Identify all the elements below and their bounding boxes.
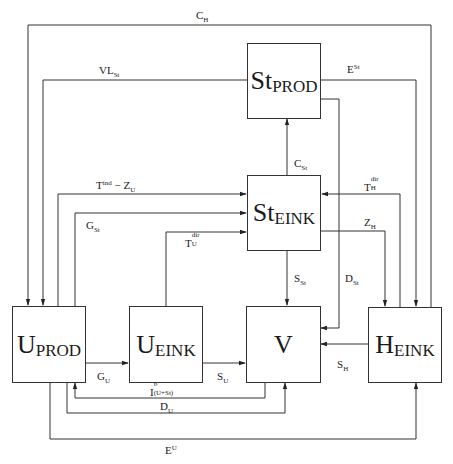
edge-z-h	[321, 231, 385, 306]
node-st-eink: StEINK	[247, 175, 321, 251]
label-t-h-dir: TdirH	[364, 180, 379, 193]
label-s-u: SU	[217, 371, 228, 382]
label-g-u: GU	[97, 371, 110, 382]
label-g-st: GSt	[86, 220, 100, 231]
node-label: U	[17, 332, 36, 358]
label-t-u-dir: TdirU	[185, 236, 200, 249]
node-u-prod: UPROD	[12, 306, 86, 383]
node-subscript: EINK	[394, 341, 435, 361]
label-z-h: ZH	[364, 217, 376, 228]
label-i-b: Ib(U+St)	[150, 385, 180, 398]
edge-e-u	[50, 382, 416, 439]
label-s-st: SSt	[294, 273, 306, 284]
node-st-prod: StPROD	[247, 43, 321, 119]
label-c-h: CH	[196, 10, 208, 21]
edge-c-h	[28, 25, 431, 307]
edge-t-u-dir	[166, 232, 246, 306]
node-v: V	[246, 306, 321, 383]
node-label: St	[250, 68, 272, 94]
label-vl-st: VLSt	[99, 65, 120, 76]
node-subscript: EINK	[155, 341, 196, 361]
label-t-ind-z-u: Tind − ZU	[96, 180, 135, 191]
label-c-st: CSt	[294, 158, 307, 169]
edge-g-st	[75, 213, 246, 306]
edge-vl-st	[43, 80, 247, 305]
label-d-u: DU	[160, 401, 173, 412]
edge-e-st	[321, 80, 416, 306]
label-d-st: DSt	[345, 273, 359, 284]
node-label: U	[136, 332, 155, 358]
node-subscript: PROD	[272, 77, 317, 97]
node-label: St	[253, 200, 275, 226]
node-subscript: EINK	[275, 209, 316, 229]
edge-t-ind-z-u	[58, 194, 246, 306]
node-label: H	[375, 332, 394, 358]
node-subscript: PROD	[36, 341, 81, 361]
node-h-eink: HEINK	[368, 307, 442, 383]
node-label: V	[274, 332, 293, 358]
label-e-st: ESt	[347, 64, 360, 75]
label-e-u: EU	[165, 445, 177, 456]
edge-t-h-dir	[322, 194, 400, 307]
label-s-h: SH	[337, 359, 348, 370]
flow-lines	[0, 0, 453, 464]
edge-d-st	[321, 99, 339, 328]
node-u-eink: UEINK	[129, 306, 203, 383]
